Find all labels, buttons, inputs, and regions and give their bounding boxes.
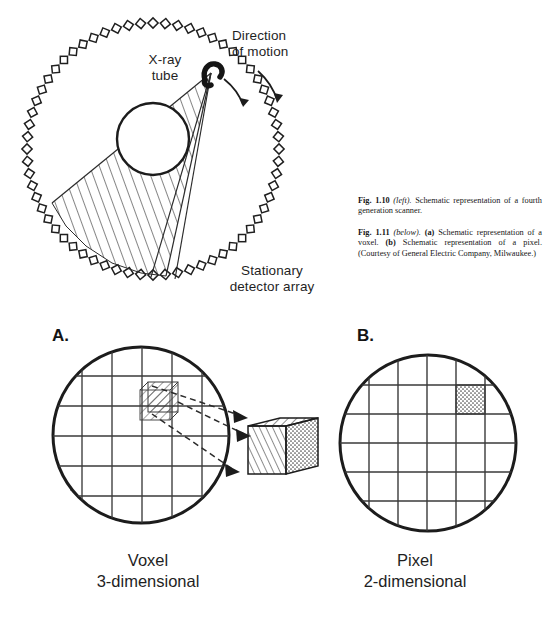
xray-tube-icon — [204, 64, 222, 86]
detector-element — [273, 132, 283, 142]
caption-fig-1-10: Fig. 1.10 (left). Schematic representati… — [358, 196, 542, 217]
detector-element — [265, 96, 274, 105]
detector-element — [79, 250, 87, 258]
caption-part-b-marker: (b) — [386, 238, 396, 247]
panel-b-title: Pixel — [305, 550, 525, 571]
detector-element — [60, 56, 67, 63]
scanner-diagram: X-ray tube Direction of motion Stationar… — [0, 0, 346, 320]
detector-element — [208, 33, 217, 42]
detector-element — [52, 65, 60, 73]
detector-element — [173, 20, 183, 30]
detector-element — [239, 235, 246, 242]
detector-element — [28, 181, 38, 191]
pixel-svg — [330, 348, 530, 548]
detector-element — [219, 250, 227, 258]
detector-element — [197, 28, 206, 37]
detector-element — [272, 169, 282, 179]
detector-element — [37, 85, 46, 94]
detector-element — [185, 24, 195, 34]
panel-b-caption: Pixel 2-dimensional — [305, 550, 525, 592]
detector-element — [100, 28, 109, 37]
detector-element — [100, 261, 109, 270]
detector-element — [254, 215, 262, 223]
voxel-svg — [28, 330, 328, 550]
detector-element — [32, 193, 41, 202]
detector-element — [260, 204, 269, 213]
figure-page: X-ray tube Direction of motion Stationar… — [0, 0, 546, 633]
panel-a-caption: Voxel 3-dimensional — [38, 550, 258, 592]
object-circle — [117, 103, 189, 175]
figure-captions: Fig. 1.10 (left). Schematic representati… — [358, 196, 542, 259]
xray-tube-label: X-ray tube — [129, 52, 201, 83]
detector-element — [160, 19, 170, 29]
detector-element — [69, 242, 77, 250]
detector-element — [265, 193, 274, 202]
direction-of-motion-label: Direction of motion — [232, 28, 342, 59]
pixel-diagram — [330, 348, 530, 548]
detector-element — [173, 268, 183, 278]
detector-element — [148, 18, 158, 28]
detector-element — [136, 19, 146, 29]
detector-element — [60, 235, 67, 242]
detector-element — [44, 215, 52, 223]
caption-part-a-marker: (a) — [425, 228, 435, 237]
detector-element — [197, 261, 206, 270]
detector-element — [32, 96, 41, 105]
detector-element — [44, 75, 52, 83]
detector-element — [185, 265, 195, 275]
detector-element — [269, 108, 279, 118]
caption-fig-number: Fig. 1.11 — [358, 228, 390, 237]
caption-fig-number: Fig. 1.10 — [358, 196, 390, 205]
detector-element — [37, 204, 46, 213]
detector-element — [52, 225, 60, 233]
detector-element — [229, 242, 237, 250]
caption-fig-1-11: Fig. 1.11 (below). (a) Schematic represe… — [358, 228, 542, 259]
voxel-diagram — [28, 330, 328, 550]
voxel-slice — [53, 347, 229, 523]
detector-element — [260, 85, 269, 94]
detector-element — [69, 48, 77, 56]
panel-b-letter: B. — [357, 326, 374, 346]
voxel-cube — [248, 418, 318, 474]
panel-a-subtitle: 3-dimensional — [38, 571, 258, 592]
panel-a-title: Voxel — [38, 550, 258, 571]
detector-element — [246, 225, 254, 233]
detector-element — [112, 24, 122, 34]
detector-element — [254, 75, 262, 83]
detector-element — [219, 40, 227, 48]
detector-element — [28, 108, 38, 118]
detector-element — [89, 33, 98, 42]
panel-b-subtitle: 2-dimensional — [305, 571, 525, 592]
detector-element — [79, 40, 87, 48]
highlighted-pixel-cell — [456, 385, 485, 414]
detector-element — [269, 181, 279, 191]
detector-element — [274, 144, 284, 154]
detector-element — [24, 119, 34, 129]
detector-element — [123, 20, 133, 30]
detector-element — [23, 156, 33, 166]
detector-element — [22, 144, 32, 154]
detector-array-label: Stationary detector array — [212, 263, 332, 294]
detector-element — [24, 169, 34, 179]
detector-element — [273, 156, 283, 166]
detector-element — [23, 132, 33, 142]
rotation-arrows — [224, 71, 283, 107]
caption-position-note: (left). — [393, 196, 411, 205]
detector-element — [272, 119, 282, 129]
detector-element — [89, 256, 98, 265]
caption-position-note: (below). — [393, 228, 420, 237]
detector-element — [246, 65, 254, 73]
